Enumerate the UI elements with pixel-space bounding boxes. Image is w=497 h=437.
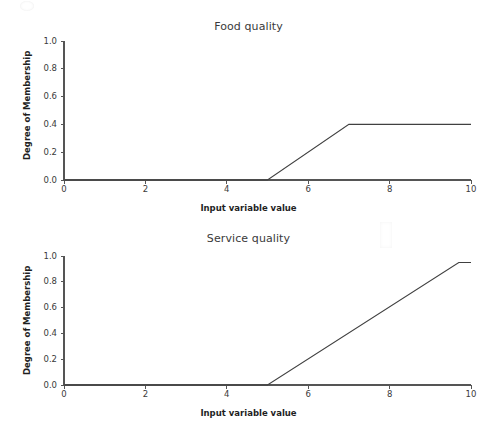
y-tick-label: 0.0: [43, 175, 57, 185]
y-tick-label: 1.0: [43, 251, 57, 261]
x-axis-label-service-quality: Input variable value: [0, 408, 497, 418]
y-tick-group-food: 0.00.20.40.60.81.0: [43, 36, 64, 185]
y-tick-label: 0.6: [43, 302, 57, 312]
plot-area-food-quality: 0.00.20.40.60.81.0 0246810: [0, 0, 497, 220]
plot-area-service-quality: 0.00.20.40.60.81.0 0246810: [0, 220, 497, 437]
x-tick-group-food: 0246810: [61, 180, 476, 194]
x-tick-label: 6: [305, 184, 310, 194]
x-tick-label: 0: [61, 389, 66, 399]
x-tick-label: 4: [224, 389, 229, 399]
data-line-food-membership: [64, 124, 471, 180]
y-tick-label: 0.0: [43, 380, 57, 390]
chart-panel-food-quality: Food quality Degree of Membership 0.00.2…: [0, 0, 497, 220]
x-axis-label-food-quality: Input variable value: [0, 203, 497, 213]
y-tick-label: 0.2: [43, 147, 57, 157]
x-tick-label: 2: [143, 389, 148, 399]
y-tick-label: 0.4: [43, 328, 57, 338]
y-tick-group-service: 0.00.20.40.60.81.0: [43, 251, 64, 390]
chart-panel-service-quality: Service quality Degree of Membership 0.0…: [0, 220, 497, 437]
y-tick-label: 1.0: [43, 36, 57, 46]
x-tick-label: 10: [466, 389, 477, 399]
x-tick-group-service: 0246810: [61, 385, 476, 399]
data-line-service-membership: [64, 262, 471, 385]
y-tick-label: 0.8: [43, 276, 57, 286]
x-tick-label: 8: [387, 184, 392, 194]
axis-spines-food: [64, 41, 471, 180]
y-tick-label: 0.4: [43, 119, 57, 129]
x-tick-label: 6: [305, 389, 310, 399]
y-tick-label: 0.2: [43, 354, 57, 364]
x-tick-label: 0: [61, 184, 66, 194]
axis-spines-service: [64, 256, 471, 385]
y-tick-label: 0.6: [43, 91, 57, 101]
figure-canvas: Food quality Degree of Membership 0.00.2…: [0, 0, 497, 437]
x-tick-label: 8: [387, 389, 392, 399]
y-tick-label: 0.8: [43, 63, 57, 73]
x-tick-label: 10: [466, 184, 477, 194]
x-tick-label: 4: [224, 184, 229, 194]
x-tick-label: 2: [143, 184, 148, 194]
